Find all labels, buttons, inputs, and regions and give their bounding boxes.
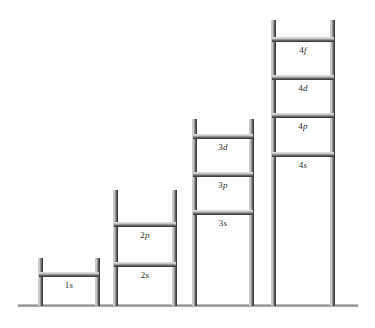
orbital-label-4s: 4s <box>271 160 335 170</box>
rung-2p <box>114 222 176 227</box>
orbital-label-subshell-3p: p <box>223 180 228 190</box>
ladder-n4: 4f4d4p4s <box>271 20 335 306</box>
rung-4d <box>272 75 334 80</box>
ladder-n2-rail-right <box>172 190 177 306</box>
orbital-label-subshell-3s: s <box>224 218 228 228</box>
orbital-label-4p: 4p <box>271 121 335 131</box>
orbital-label-3s: 3s <box>192 218 254 228</box>
orbital-label-subshell-2p: p <box>145 230 150 240</box>
rung-3s <box>193 210 253 215</box>
orbital-label-subshell-4d: d <box>303 83 308 93</box>
orbital-label-subshell-1s: s <box>70 280 74 290</box>
rung-2s <box>114 262 176 267</box>
orbital-label-3p: 3p <box>192 180 254 190</box>
orbital-label-1s: 1s <box>38 280 100 290</box>
orbital-label-4f: 4f <box>271 45 335 55</box>
orbital-ladder-figure: 1s2p2s3d3p3s4f4d4p4s <box>0 0 375 328</box>
ladder-n2: 2p2s <box>113 190 177 306</box>
rung-1s <box>39 272 99 277</box>
rung-4f <box>272 37 334 42</box>
rung-4s <box>272 152 334 157</box>
orbital-label-subshell-4p: p <box>303 121 308 131</box>
rung-3p <box>193 172 253 177</box>
orbital-label-subshell-3d: d <box>223 142 228 152</box>
rung-4p <box>272 113 334 118</box>
orbital-label-subshell-4s: s <box>304 160 308 170</box>
ladder-n2-rail-left <box>113 190 118 306</box>
rung-3d <box>193 134 253 139</box>
orbital-label-4d: 4d <box>271 83 335 93</box>
orbital-label-subshell-4f: f <box>304 45 307 55</box>
ladder-n1: 1s <box>38 258 100 306</box>
ladder-n3: 3d3p3s <box>192 119 254 306</box>
orbital-label-3d: 3d <box>192 142 254 152</box>
orbital-label-2p: 2p <box>113 230 177 240</box>
orbital-label-subshell-2s: s <box>146 270 150 280</box>
orbital-label-2s: 2s <box>113 270 177 280</box>
